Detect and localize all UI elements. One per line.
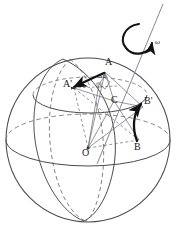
- radius-O-to-A: [88, 72, 105, 148]
- label-point-B: B: [134, 142, 141, 152]
- equator-back-arc: [6, 114, 170, 140]
- label-delta-theta: Δθ: [98, 73, 106, 80]
- figure-caption: [0, 233, 176, 238]
- radius-O-to-B: [88, 140, 139, 148]
- label-omega: ω: [155, 39, 160, 46]
- label-point-A-prime: A': [63, 79, 72, 89]
- label-point-O: O: [82, 148, 89, 158]
- segment-A-prime-C: [74, 88, 114, 101]
- radius-O-to-A-prime: [74, 88, 88, 148]
- diagram-canvas: [0, 0, 176, 238]
- point-marker-A-prime: [73, 87, 75, 89]
- label-point-C: C: [111, 95, 118, 105]
- label-point-A: A: [105, 57, 112, 67]
- label-point-B-prime: B': [144, 96, 152, 106]
- rotating-sphere-figure: A A' Δθ C B' B O ω: [0, 0, 176, 238]
- rotation-direction-arrow: [123, 24, 152, 54]
- tilted-great-circle-left: [34, 59, 84, 221]
